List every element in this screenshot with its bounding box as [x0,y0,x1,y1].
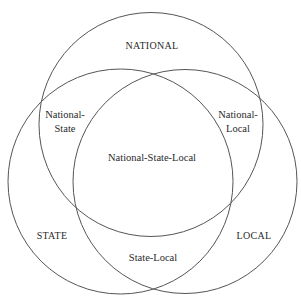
label-local: LOCAL [237,230,272,241]
label-state-local: State-Local [129,252,177,263]
label-national-state-line1: National- [45,109,85,120]
label-national: NATIONAL [126,40,179,51]
label-state: STATE [37,230,68,241]
state-circle [8,69,233,294]
label-national-local-line2: Local [226,123,250,134]
local-circle [73,70,297,294]
label-national-state-local: National-State-Local [108,152,196,163]
venn-diagram: NATIONAL National- State National- Local… [0,0,301,302]
label-national-local-line1: National- [218,109,258,120]
label-national-state-line2: State [55,123,76,134]
